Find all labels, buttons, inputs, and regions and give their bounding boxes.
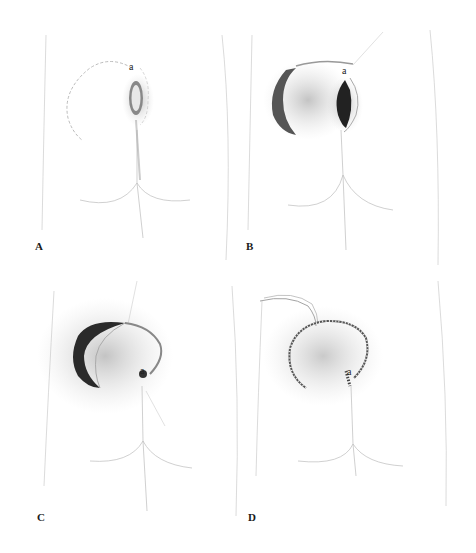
illustration-b [238, 0, 476, 276]
point-label-a: a [140, 365, 144, 376]
illustration-d [238, 276, 476, 552]
point-label-a: a [347, 366, 351, 377]
panel-a: a A [0, 0, 238, 276]
panel-label-a: A [35, 240, 43, 252]
panel-c: a C [0, 276, 238, 552]
panel-label-c: C [37, 511, 45, 523]
panel-b: a B [238, 0, 476, 276]
panel-label-b: B [246, 240, 253, 252]
point-label-a: a [129, 61, 133, 72]
panel-label-d: D [248, 511, 256, 523]
illustration-c [0, 276, 238, 552]
illustration-a [0, 0, 238, 276]
point-label-a: a [342, 65, 346, 76]
panel-d: a D [238, 276, 476, 552]
